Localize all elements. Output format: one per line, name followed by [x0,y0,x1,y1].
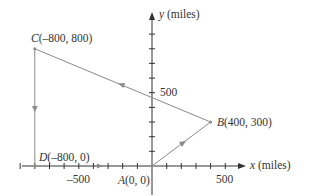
point-label-c: C(–800, 800) [31,33,92,45]
y-axis-arrow-icon [149,12,155,20]
y-axis-label: y (miles) [159,9,200,21]
direction-arrow-icon-b-c [118,83,125,88]
x-axis-label: x (miles) [250,160,291,172]
direction-arrow-icon-d-a [97,164,103,169]
point-c [33,47,36,50]
y-tick-label-500: 500 [160,87,177,99]
direction-arrow-icon-a-b [179,141,186,147]
point-d [34,165,37,168]
point-label-d: D(–800, 0) [39,152,89,164]
x-tick-label-neg-500: –500 [67,174,90,186]
point-label-a: A(0, 0) [118,175,150,187]
point-b [209,121,212,124]
point-a [151,165,154,168]
direction-arrow-icon-c-d [32,106,38,112]
point-label-b: B(400, 300) [217,117,272,129]
x-tick-label-500: 500 [216,174,233,186]
x-axis-arrow-icon [238,163,246,169]
